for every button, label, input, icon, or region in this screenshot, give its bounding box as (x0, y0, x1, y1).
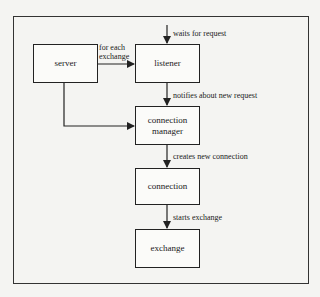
node-connection-manager: connection manager (135, 106, 200, 145)
node-connection-label: connection (148, 181, 188, 192)
node-server: server (33, 44, 98, 83)
node-server-label: server (55, 58, 77, 69)
edge-label-notifies-about-new-request: notifies about new request (173, 91, 257, 100)
node-connection: connection (135, 168, 200, 205)
edge-label-starts-exchange: starts exchange (173, 213, 222, 222)
node-connection-manager-label: connection manager (144, 115, 191, 137)
node-listener: listener (135, 44, 200, 83)
node-exchange: exchange (135, 229, 200, 268)
edge-label-exchange: exchange (99, 52, 129, 61)
edge-label-waits-for-request: waits for request (173, 29, 226, 38)
edge-label-for-each: for each (99, 43, 125, 52)
edge-label-creates-new-connection: creates new connection (173, 152, 248, 161)
node-exchange-label: exchange (151, 243, 185, 254)
node-listener-label: listener (154, 58, 181, 69)
